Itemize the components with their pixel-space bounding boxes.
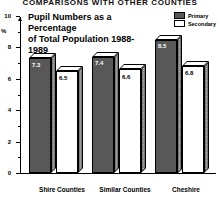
y-tick-label-4: 4 [8,107,11,113]
bar-face-cheshire-secondary [182,66,204,173]
y-tick-2: 2 [16,142,20,143]
y-tick-minor-5 [18,95,20,96]
y-tick-0: 0 [16,173,20,174]
y-tick-6: 6 [16,79,20,80]
y-tick-8: 8 [16,47,20,48]
x-axis-line [20,173,216,174]
y-tick-minor-3 [18,126,20,127]
page-header: COMPARISONS WITH OTHER COUNTIES [0,0,220,7]
x-label-cheshire: Cheshire [172,186,200,193]
y-tick-label-6: 6 [8,76,11,82]
bar-value-similar-primary: 7.4 [95,60,103,67]
bar-value-cheshire-primary: 8.5 [158,43,166,50]
y-tick-label-0: 0 [8,170,11,176]
x-label-shire-counties: Shire Counties [39,186,85,193]
bar-value-shire-primary: 7.3 [32,62,40,69]
bar-side-cheshire-secondary [204,61,209,173]
bar-value-cheshire-secondary: 6.8 [185,70,193,77]
page-header-text: COMPARISONS WITH OTHER COUNTIES [0,0,220,7]
bar-face-shire-primary [29,58,51,173]
x-axis-labels: Shire Counties Similar Counties Cheshire [20,186,216,198]
bar-face-similar-secondary [119,69,141,173]
y-tick-4: 4 [16,110,20,111]
bar-value-shire-secondary: 6.5 [59,75,67,82]
bar-face-cheshire-primary [155,40,177,174]
y-tick-label-8: 8 [8,44,11,50]
chart-page: COMPARISONS WITH OTHER COUNTIES Pupil Nu… [0,0,220,203]
y-tick-minor-7 [18,63,20,64]
bar-face-shire-secondary [56,71,78,173]
bar-side-similar-secondary [141,64,146,173]
bar-group-shire-counties: 7.3 6.5 [29,17,89,173]
bar-side-shire-secondary [78,66,83,173]
bar-group-cheshire: 8.5 6.8 [155,17,215,173]
y-tick-10: 10 [16,16,20,17]
plot-area: % 0 2 4 6 8 10 [20,14,216,182]
bar-groups: 7.3 6.5 7.4 [21,17,216,173]
y-tick-label-10: 10 [4,13,11,19]
y-tick-minor-1 [18,157,20,158]
y-tick-minor-9 [18,32,20,33]
bar-group-similar-counties: 7.4 6.6 [92,17,152,173]
bar-value-similar-secondary: 6.6 [122,74,130,81]
y-axis-unit-label: % [1,28,6,34]
bar-face-similar-primary [92,57,114,173]
x-label-similar-counties: Similar Counties [99,186,150,193]
y-tick-label-2: 2 [8,139,11,145]
